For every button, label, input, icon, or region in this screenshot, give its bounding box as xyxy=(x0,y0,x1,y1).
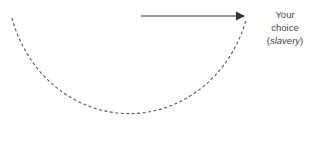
dashed-arc xyxy=(12,18,246,114)
your-choice-label: Your choice (slavery) xyxy=(250,8,320,47)
label-line-1: Your xyxy=(250,8,320,21)
label-line-2: choice xyxy=(250,21,320,34)
label-line-3: (slavery) xyxy=(250,34,320,47)
slavery-text: slavery xyxy=(270,35,300,46)
